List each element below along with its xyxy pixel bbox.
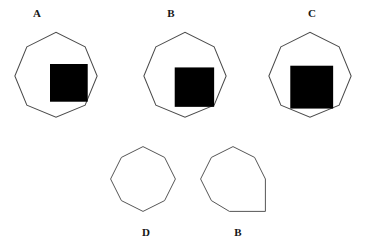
figure-label-a: A: [27, 8, 47, 19]
figure-label-b: B: [161, 8, 181, 19]
figure-label-e: B: [228, 227, 248, 238]
panel-c-graphic: [262, 28, 358, 124]
panel-a-graphic: [8, 28, 104, 124]
black-square-occluder-a: [50, 64, 88, 102]
panel-d-graphic: [107, 143, 179, 215]
figure-panel-e: [197, 143, 269, 215]
figure-panel-a: [8, 28, 104, 124]
figure-panel-d: [107, 143, 179, 215]
figure-canvas: A B C D B: [0, 0, 365, 247]
black-square-occluder-c: [290, 66, 333, 109]
figure-label-d: D: [136, 227, 156, 238]
panel-b-graphic: [137, 28, 233, 124]
black-square-occluder-b: [175, 67, 214, 106]
figure-panel-b: [137, 28, 233, 124]
figure-label-c: C: [302, 8, 322, 19]
figure-panel-c: [262, 28, 358, 124]
octagon-outline-d: [111, 147, 176, 212]
octagon-square-corner-outline-e: [201, 147, 266, 212]
panel-e-graphic: [197, 143, 269, 215]
